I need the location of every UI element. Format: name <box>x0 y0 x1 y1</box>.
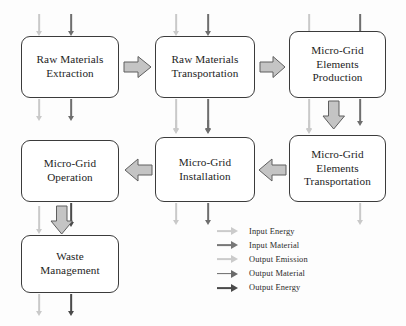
node-raw-materials-transportation[interactable]: Raw Materials Transportation <box>155 36 255 98</box>
flow-arrow-input-material-into-raw-materials-extraction <box>66 14 76 36</box>
arrow-shaft <box>175 14 177 31</box>
diagram-canvas: Raw Materials Extraction Raw Materials T… <box>0 0 406 326</box>
arrow-shaft <box>217 273 231 275</box>
legend-item-input-material: Input Material <box>216 238 308 252</box>
arrow-head <box>231 241 238 249</box>
arrow-shaft <box>38 206 40 229</box>
node-label: Micro-Grid Operation <box>41 157 100 184</box>
block-arrow-transportation-to-production <box>259 55 286 79</box>
flow-arrow-output-material-from-micro-grid-installation <box>203 203 213 225</box>
arrow-head <box>231 270 238 278</box>
legend-item-output-energy: Output Energy <box>216 281 308 295</box>
arrow-head <box>68 116 74 121</box>
arrow-shaft <box>207 120 209 129</box>
legend-item-input-energy: Input Energy <box>216 224 308 238</box>
legend-item-output-material: Output Material <box>216 267 308 281</box>
node-micro-grid-elements-transportation[interactable]: Micro-Grid Elements Transportation <box>289 135 386 202</box>
legend-label: Output Material <box>249 269 305 278</box>
node-micro-grid-elements-production[interactable]: Micro-Grid Elements Production <box>289 31 386 98</box>
arrow-head <box>357 220 363 225</box>
legend-arrow-icon <box>216 241 242 250</box>
flow-arrow-output-emission-from-micro-grid-elements-transportation <box>355 203 365 225</box>
node-raw-materials-extraction[interactable]: Raw Materials Extraction <box>21 36 119 98</box>
legend-label: Input Material <box>249 241 299 250</box>
flow-arrow-output-emission-from-waste-management <box>34 294 44 316</box>
flow-arrow-output-energy-from-waste-management <box>66 294 76 316</box>
legend: Input Energy Input Material Output Emiss… <box>216 224 308 295</box>
arrow-shaft <box>38 294 40 311</box>
arrow-shaft <box>359 203 361 220</box>
flow-arrow-input-material-into-raw-materials-transportation <box>203 14 213 36</box>
legend-label: Output Energy <box>249 283 300 292</box>
arrow-shaft <box>175 203 177 220</box>
legend-label: Input Energy <box>249 227 295 236</box>
flow-arrow-input-energy-into-micro-grid-elements-transportation <box>304 120 314 134</box>
arrow-shaft <box>217 259 231 261</box>
flow-arrow-output-emission-from-micro-grid-installation <box>171 203 181 225</box>
node-waste-management[interactable]: Waste Management <box>21 235 119 293</box>
arrow-shaft <box>70 294 72 311</box>
arrow-head <box>231 255 238 263</box>
block-arrow-installation-to-operation <box>124 157 153 183</box>
legend-arrow-icon <box>216 255 242 264</box>
arrow-head <box>306 129 312 134</box>
arrow-shaft <box>38 14 40 31</box>
arrow-shaft <box>207 14 209 31</box>
block-arrow-production-to-elements-transportation <box>322 100 346 130</box>
flow-arrow-output-material-from-raw-materials-extraction <box>66 99 76 121</box>
arrow-shaft <box>308 14 310 31</box>
node-label: Raw Materials Extraction <box>34 53 107 80</box>
arrow-head <box>36 311 42 316</box>
arrow-head <box>231 284 238 292</box>
arrow-head <box>36 229 42 234</box>
arrow-shaft <box>38 99 40 116</box>
flow-arrow-input-energy-into-micro-grid-installation <box>171 120 181 134</box>
node-label: Raw Materials Transportation <box>169 53 242 80</box>
node-label: Micro-Grid Elements Transportation <box>301 148 374 189</box>
arrow-shaft <box>359 14 361 31</box>
arrow-head <box>36 116 42 121</box>
flow-arrow-input-material-into-micro-grid-installation <box>203 120 213 134</box>
arrow-head <box>173 129 179 134</box>
arrow-shaft <box>70 14 72 31</box>
legend-label: Output Emission <box>249 255 308 264</box>
arrow-shaft <box>175 120 177 129</box>
legend-item-output-emission: Output Emission <box>216 252 308 266</box>
arrow-shaft <box>217 244 231 246</box>
flow-arrow-input-energy-into-waste-management <box>34 206 44 234</box>
arrow-shaft <box>70 99 72 116</box>
arrow-head <box>173 220 179 225</box>
node-label: Waste Management <box>37 250 102 277</box>
arrow-head <box>357 121 363 126</box>
flow-arrow-output-material-from-micro-grid-elements-production <box>355 99 365 126</box>
node-label: Micro-Grid Elements Production <box>308 44 367 85</box>
arrow-shaft <box>308 120 310 129</box>
legend-arrow-icon <box>216 269 242 278</box>
legend-arrow-icon <box>216 283 242 292</box>
arrow-head <box>205 220 211 225</box>
node-micro-grid-installation[interactable]: Micro-Grid Installation <box>155 137 255 202</box>
flow-arrow-input-energy-into-raw-materials-extraction <box>34 14 44 36</box>
arrow-shaft <box>207 203 209 220</box>
arrow-shaft <box>359 99 361 121</box>
arrow-shaft <box>217 230 231 232</box>
arrow-head <box>205 129 211 134</box>
arrow-head <box>68 311 74 316</box>
block-arrow-operation-to-waste-management <box>50 205 74 235</box>
flow-arrow-output-emission-from-raw-materials-extraction <box>34 99 44 121</box>
arrow-head <box>231 227 238 235</box>
block-arrow-extraction-to-transportation <box>123 55 152 79</box>
node-label: Micro-Grid Installation <box>176 156 235 183</box>
flow-arrow-input-energy-into-raw-materials-transportation <box>171 14 181 36</box>
block-arrow-elements-transportation-to-installation <box>258 157 287 183</box>
legend-arrow-icon <box>216 227 242 236</box>
arrow-shaft <box>217 287 231 289</box>
node-micro-grid-operation[interactable]: Micro-Grid Operation <box>21 140 119 202</box>
